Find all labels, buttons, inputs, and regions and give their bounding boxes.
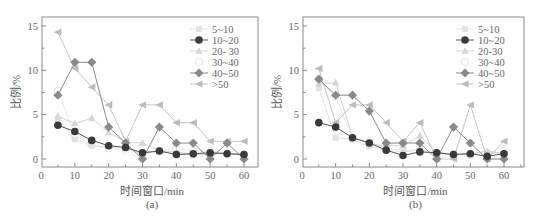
triangle-up-marker	[54, 112, 61, 119]
circle-marker	[416, 148, 424, 156]
y-tick-label: 10	[28, 65, 39, 76]
legend-item: 20- 30	[190, 46, 239, 57]
open-circle-marker	[461, 58, 468, 65]
circle-marker	[467, 150, 475, 158]
legend-item: 40~50	[190, 68, 239, 79]
x-tick-label: 40	[171, 170, 182, 181]
circle-marker	[54, 122, 62, 130]
circle-marker	[366, 139, 374, 147]
x-tick-label: 0	[38, 170, 43, 181]
x-tick-label: 30	[398, 170, 409, 181]
legend-item: 20-30	[456, 46, 503, 57]
triangle-up-marker	[461, 47, 468, 54]
circle-marker	[105, 142, 113, 150]
circle-marker	[349, 134, 357, 142]
y-tick-label: 15	[289, 21, 300, 32]
open-circle-marker	[195, 58, 202, 65]
x-tick-label: 10	[70, 170, 81, 181]
circle-marker	[71, 128, 79, 136]
legend-label: 40~50	[212, 68, 239, 79]
y-tick-label: 15	[28, 21, 39, 32]
legend-label: >50	[478, 79, 494, 90]
triangle-left-marker	[54, 29, 62, 36]
triangle-left-marker	[138, 101, 146, 108]
y-tick-label: 0	[294, 154, 299, 165]
line-chart-b: 0102030405060051015时间窗口/min(b)比例/%5~1010…	[268, 0, 536, 219]
square-marker	[333, 135, 339, 141]
legend: 5~1010~2020- 3030~4040~50>50	[190, 24, 239, 90]
triangle-left-marker	[240, 138, 248, 145]
legend-label: 30~40	[478, 57, 505, 68]
circle-marker	[122, 144, 130, 152]
legend-label: >50	[212, 79, 228, 90]
triangle-up-marker	[88, 114, 95, 121]
legend-item: >50	[456, 79, 494, 90]
circle-marker	[223, 150, 231, 158]
square-marker	[196, 26, 202, 32]
triangle-left-marker	[315, 65, 323, 72]
x-axis-label: 时间窗口/min	[120, 184, 185, 197]
legend-item: 10~20	[456, 35, 505, 46]
circle-marker	[195, 36, 203, 44]
square-marker	[462, 26, 468, 32]
diamond-marker	[194, 68, 203, 77]
legend-label: 20-30	[478, 46, 503, 57]
circle-marker	[189, 150, 197, 158]
series-line	[58, 125, 244, 154]
chart-panel-a: 0102030405060051015时间窗口/min(a)比例/%5~1010…	[0, 0, 268, 219]
circle-marker	[88, 137, 96, 145]
x-tick-label: 0	[299, 170, 304, 181]
triangle-left-marker	[195, 80, 203, 87]
line-chart-a: 0102030405060051015时间窗口/min(a)比例/%5~1010…	[0, 0, 268, 219]
legend-item: 30~40	[456, 57, 505, 68]
panel-caption: (a)	[146, 198, 159, 211]
legend-item: 40~50	[456, 68, 505, 79]
legend-label: 10~20	[212, 35, 239, 46]
circle-marker	[173, 151, 181, 159]
x-tick-label: 50	[205, 170, 216, 181]
triangle-up-marker	[332, 79, 339, 86]
series-10-20	[315, 119, 508, 160]
circle-marker	[240, 151, 248, 159]
legend-label: 40~50	[478, 68, 505, 79]
y-axis-label: 比例/%	[9, 75, 22, 109]
legend-item: 5~10	[190, 24, 233, 35]
series-line	[58, 116, 244, 154]
diamond-marker	[460, 68, 469, 77]
legend-item: 10~20	[190, 35, 239, 46]
x-tick-label: 40	[431, 170, 442, 181]
series-line	[319, 69, 504, 159]
series-5-10	[316, 85, 507, 158]
circle-marker	[433, 149, 441, 157]
series-line	[58, 91, 244, 155]
circle-marker	[156, 147, 164, 155]
circle-marker	[500, 150, 508, 158]
legend-label: 5~10	[212, 24, 233, 35]
x-tick-label: 60	[499, 170, 510, 181]
circle-marker	[461, 36, 469, 44]
legend-label: 20- 30	[212, 46, 239, 57]
series-line	[319, 83, 504, 155]
circle-marker	[206, 149, 214, 157]
y-axis-label: 比例/%	[270, 75, 283, 109]
triangle-up-marker	[195, 47, 202, 54]
triangle-left-marker	[155, 101, 163, 108]
x-tick-label: 20	[364, 170, 375, 181]
triangle-left-marker	[466, 101, 474, 108]
x-axis-label: 时间窗口/min	[383, 184, 448, 197]
circle-marker	[399, 152, 407, 160]
legend-item: >50	[190, 79, 228, 90]
legend-label: 5~10	[478, 24, 499, 35]
legend-item: 30~40	[190, 57, 239, 68]
circle-marker	[332, 123, 340, 131]
legend: 5~1010~2020-3030~4040~50>50	[456, 24, 505, 90]
square-marker	[72, 136, 78, 142]
legend-label: 10~20	[478, 35, 505, 46]
x-tick-label: 10	[330, 170, 341, 181]
legend-label: 30~40	[212, 57, 239, 68]
x-tick-label: 50	[465, 170, 476, 181]
y-tick-label: 10	[289, 65, 300, 76]
y-tick-label: 0	[33, 154, 38, 165]
series-line	[319, 88, 504, 155]
triangle-left-marker	[189, 119, 197, 126]
